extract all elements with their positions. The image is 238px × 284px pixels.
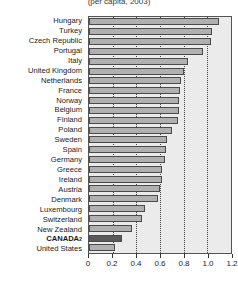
- x-tick-mark: [88, 254, 89, 258]
- category-label: Belgium: [0, 105, 85, 115]
- bar: [89, 185, 160, 192]
- bar: [89, 205, 145, 212]
- bar: [89, 136, 167, 143]
- bar-row: [89, 243, 231, 253]
- bar-row: [89, 223, 231, 233]
- category-label-text: United States: [36, 245, 82, 253]
- x-tick-label: 0: [86, 259, 90, 268]
- bar-row: [89, 115, 231, 125]
- bar: [89, 107, 179, 114]
- plot-area: [88, 16, 232, 254]
- x-tick-mark: [112, 254, 113, 258]
- bar-row: [89, 155, 231, 165]
- category-label: Sweden: [0, 135, 85, 145]
- bar-row: [89, 214, 231, 224]
- category-label-text: Sweden: [55, 136, 82, 144]
- category-label-text: Greece: [57, 166, 82, 174]
- bar: [89, 97, 179, 104]
- category-label-text: CANADA: [46, 235, 79, 243]
- category-label-text: United Kingdom: [28, 67, 82, 75]
- bar: [89, 87, 180, 94]
- bar: [89, 38, 211, 45]
- bar: [89, 146, 166, 153]
- category-label-text: Luxembourg: [40, 206, 82, 214]
- category-label: CANADA2: [0, 234, 85, 244]
- category-label: Austria: [0, 185, 85, 195]
- bar: [89, 48, 203, 55]
- category-label-text: France: [58, 87, 82, 95]
- category-axis-labels: HungaryTurkeyCzech RepublicPortugalItaly…: [0, 16, 85, 254]
- bar-row: [89, 86, 231, 96]
- bar-row: [89, 76, 231, 86]
- bar: [89, 215, 142, 222]
- bar: [89, 18, 219, 25]
- category-label-text: Belgium: [55, 106, 82, 114]
- bar-row: [89, 184, 231, 194]
- x-tick-label: 0.6: [154, 259, 165, 268]
- x-tick-mark: [208, 254, 209, 258]
- category-label: New Zealand: [0, 224, 85, 234]
- bar: [89, 127, 172, 134]
- category-label: Ireland: [0, 175, 85, 185]
- bar-row: [89, 96, 231, 106]
- category-label-text: Netherlands: [41, 77, 82, 85]
- category-label: Hungary: [0, 16, 85, 26]
- chart-title: (per capita, 2003): [0, 0, 238, 6]
- bar: [89, 176, 162, 183]
- category-label: Spain: [0, 145, 85, 155]
- bar-row: [89, 145, 231, 155]
- bar: [89, 77, 181, 84]
- category-label-text: Czech Republic: [29, 37, 82, 45]
- x-axis: 00.20.40.60.81.01.2: [88, 254, 232, 284]
- category-label: Greece: [0, 165, 85, 175]
- category-label-text: Hungary: [53, 17, 82, 25]
- bar-row: [89, 135, 231, 145]
- category-label-text: Finland: [57, 116, 82, 124]
- x-tick-mark: [136, 254, 137, 258]
- bar-row: [89, 233, 231, 243]
- bar: [89, 244, 115, 251]
- category-label: Denmark: [0, 195, 85, 205]
- category-label-text: Switzerland: [43, 216, 82, 224]
- bar-row: [89, 125, 231, 135]
- bar-row: [89, 194, 231, 204]
- bar-row: [89, 204, 231, 214]
- category-label-text: Italy: [68, 57, 82, 65]
- category-label: United States: [0, 244, 85, 254]
- category-label: Portugal: [0, 46, 85, 56]
- bar: [89, 28, 212, 35]
- x-tick-label: 0.4: [130, 259, 141, 268]
- bar-row: [89, 174, 231, 184]
- category-label-text: Poland: [58, 126, 82, 134]
- category-label: Finland: [0, 115, 85, 125]
- category-label-text: Norway: [56, 97, 82, 105]
- bar: [89, 225, 132, 232]
- bar-chart: (per capita, 2003) HungaryTurkeyCzech Re…: [0, 0, 238, 284]
- bar-row: [89, 164, 231, 174]
- bar-row: [89, 37, 231, 47]
- x-tick-mark: [232, 254, 233, 258]
- category-label: France: [0, 85, 85, 95]
- category-label: Netherlands: [0, 76, 85, 86]
- x-tick-label: 0.8: [178, 259, 189, 268]
- bar: [89, 58, 188, 65]
- category-label: Germany: [0, 155, 85, 165]
- bar: [89, 235, 122, 242]
- bar-row: [89, 105, 231, 115]
- bar: [89, 117, 178, 124]
- bar: [89, 68, 184, 75]
- x-tick-mark: [184, 254, 185, 258]
- bars-layer: [89, 17, 231, 253]
- x-tick-label: 1.0: [202, 259, 213, 268]
- category-label: United Kingdom: [0, 66, 85, 76]
- bar: [89, 156, 165, 163]
- category-label: Switzerland: [0, 214, 85, 224]
- category-label: Luxembourg: [0, 205, 85, 215]
- category-label-text: Denmark: [51, 196, 82, 204]
- x-tick-label: 1.2: [226, 259, 237, 268]
- category-label: Italy: [0, 56, 85, 66]
- bar-row: [89, 56, 231, 66]
- x-tick-label: 0.2: [106, 259, 117, 268]
- category-label: Czech Republic: [0, 36, 85, 46]
- x-tick-mark: [160, 254, 161, 258]
